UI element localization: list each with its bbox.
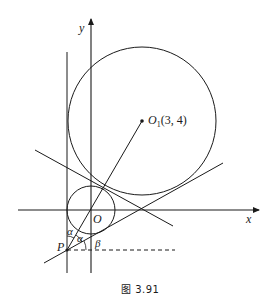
y-axis-label: y bbox=[79, 22, 84, 34]
center-point bbox=[140, 119, 144, 123]
beta-label: β bbox=[95, 238, 100, 249]
common-tangent-ascending bbox=[44, 163, 223, 263]
alpha-label-2: α bbox=[77, 233, 83, 244]
figure: y x O O1(3, 4) P α α β 图 3.91 bbox=[0, 0, 275, 300]
point-p bbox=[65, 248, 68, 251]
figure-caption: 图 3.91 bbox=[121, 281, 159, 296]
point-p-label: P bbox=[57, 241, 64, 253]
angle-arc-beta bbox=[84, 241, 86, 250]
center-coords: (3, 4) bbox=[161, 113, 187, 127]
diagram-canvas bbox=[0, 0, 275, 300]
x-axis-label: x bbox=[246, 213, 251, 225]
center-name: O bbox=[148, 113, 157, 127]
common-tangent-descending bbox=[35, 150, 173, 226]
alpha-label-1: α bbox=[67, 226, 73, 237]
center-label: O1(3, 4) bbox=[148, 114, 187, 129]
line-p-to-center bbox=[67, 121, 142, 250]
origin-label: O bbox=[93, 213, 102, 225]
